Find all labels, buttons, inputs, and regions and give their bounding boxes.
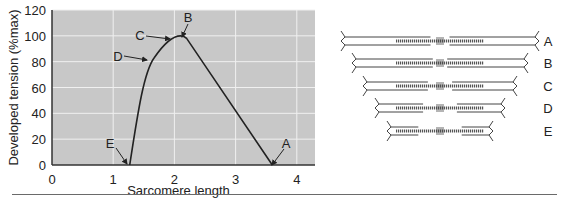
y-axis-label: Developed tension (%max) <box>6 9 21 165</box>
sarcomere-label-e: E <box>544 124 553 139</box>
y-tick-label: 60 <box>32 81 46 96</box>
z-line <box>535 31 539 51</box>
length-tension-chart: 02040608010012001234Sarcomere lengthDeve… <box>0 0 330 200</box>
y-tick-label: 80 <box>32 55 46 70</box>
z-line <box>501 98 505 118</box>
z-line <box>352 53 356 73</box>
z-line <box>489 121 493 141</box>
annotation-label-a: A <box>282 136 291 151</box>
y-tick-label: 40 <box>32 106 46 121</box>
z-line <box>375 98 379 118</box>
y-tick-label: 100 <box>24 29 46 44</box>
annotation-label-c: C <box>135 28 144 43</box>
z-line <box>387 121 391 141</box>
x-tick-label: 0 <box>48 172 55 187</box>
annotation-label-d: D <box>113 49 122 64</box>
y-tick-label: 0 <box>39 158 46 173</box>
y-tick-label: 120 <box>24 3 46 18</box>
x-tick-label: 3 <box>232 172 239 187</box>
annotation-label-e: E <box>106 136 115 151</box>
sarcomere-label-c: C <box>543 79 552 94</box>
z-line <box>341 31 345 51</box>
sarcomere-label-b: B <box>544 56 553 71</box>
divider-line <box>12 194 557 195</box>
x-tick-label: 1 <box>110 172 117 187</box>
sarcomere-label-a: A <box>544 34 553 49</box>
z-line <box>524 53 528 73</box>
annotation-label-b: B <box>184 10 193 25</box>
sarcomere-label-d: D <box>543 101 552 116</box>
x-axis-label: Sarcomere length <box>127 183 230 198</box>
y-tick-label: 20 <box>32 132 46 147</box>
z-line <box>363 76 367 96</box>
sarcomere-diagram: ABCDE <box>330 20 569 150</box>
z-line <box>513 76 517 96</box>
x-tick-label: 4 <box>293 172 300 187</box>
